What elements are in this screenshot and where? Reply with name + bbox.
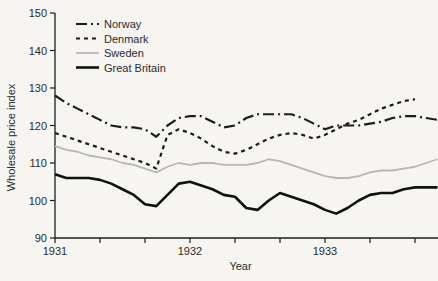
x-axis-title: Year [229,260,252,272]
y-tick-label: 90 [35,232,47,244]
y-tick-label: 150 [29,7,47,19]
series-line-sweden [55,146,438,178]
legend-label-great-britain: Great Britain [104,62,166,74]
legend-label-sweden: Sweden [104,47,144,59]
series-line-great-britain [55,174,438,213]
y-tick-label: 100 [29,195,47,207]
line-chart: 90100110120130140150193119321933YearWhol… [0,0,438,281]
x-tick-label: 1932 [178,245,202,257]
legend-label-denmark: Denmark [104,33,149,45]
y-axis-title: Wholesale price index [5,83,17,191]
x-tick-label: 1931 [43,245,67,257]
series-line-norway [55,96,438,137]
y-tick-label: 130 [29,82,47,94]
x-tick-label: 1933 [313,245,337,257]
y-tick-label: 140 [29,45,47,57]
legend-label-norway: Norway [104,18,142,30]
y-tick-label: 110 [29,157,47,169]
wholesale-price-index-chart: 90100110120130140150193119321933YearWhol… [0,0,438,281]
y-tick-label: 120 [29,120,47,132]
